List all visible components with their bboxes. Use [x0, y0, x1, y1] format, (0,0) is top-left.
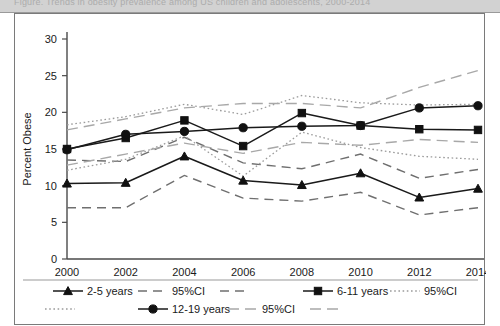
- y-axis-title: Percent Obese: [21, 112, 33, 185]
- data-point-12-19-years-2012: [415, 104, 423, 112]
- y-tick-label-20: 20: [45, 106, 57, 118]
- legend-item-6-11-years-label: 6-11 years: [337, 285, 389, 297]
- data-point-6-11-years-2004: [181, 117, 188, 124]
- legend-item-6-11-years-marker: [314, 287, 321, 294]
- caption-bar: Figure. Trends in obesity prevalence amo…: [0, 0, 500, 13]
- data-point-12-19-years-2000: [63, 146, 71, 154]
- x-tick-label-2012: 2012: [407, 266, 431, 278]
- x-tick-label-2010: 2010: [348, 266, 372, 278]
- chart-plot-area: 051015202530Percent Obese200020022004200…: [15, 14, 486, 326]
- data-point-12-19-years-2014: [474, 102, 482, 110]
- legend-item-95-ci-label: 95%CI: [172, 285, 205, 297]
- y-tick-label-30: 30: [45, 33, 57, 45]
- data-point-6-11-years-2006: [239, 142, 246, 149]
- y-tick-label-0: 0: [51, 253, 57, 265]
- x-tick-label-2004: 2004: [172, 266, 196, 278]
- data-point-12-19-years-2002: [122, 130, 130, 138]
- data-point-12-19-years-2010: [356, 121, 364, 129]
- legend-item-2-5-years-label: 2-5 years: [87, 285, 133, 297]
- x-tick-label-2006: 2006: [231, 266, 255, 278]
- series-path-12-19-years-95-ci-lower: [67, 140, 478, 166]
- data-point-12-19-years-2004: [180, 127, 188, 135]
- x-tick-label-2002: 2002: [113, 266, 137, 278]
- obesity-trend-line-chart: 051015202530Percent Obese200020022004200…: [15, 14, 486, 326]
- data-point-12-19-years-2006: [239, 124, 247, 132]
- series-path-12-19-years-95-ci-upper: [67, 71, 478, 130]
- legend-item-12-19-years-label: 12-19 years: [172, 303, 231, 315]
- legend-item-95-ci-label: 95%CI: [262, 303, 295, 315]
- caption-text: Figure. Trends in obesity prevalence amo…: [14, 0, 370, 7]
- data-point-2-5-years-2014: [474, 184, 483, 192]
- figure-container: Figure. Trends in obesity prevalence amo…: [0, 0, 500, 326]
- legend-item-95-ci-label: 95%CI: [424, 285, 457, 297]
- y-tick-label-25: 25: [45, 70, 57, 82]
- data-point-2-5-years-2010: [356, 169, 365, 177]
- x-tick-label-2008: 2008: [290, 266, 314, 278]
- y-tick-label-5: 5: [51, 216, 57, 228]
- data-point-6-11-years-2014: [474, 126, 481, 133]
- figure-frame: 051015202530Percent Obese200020022004200…: [14, 13, 485, 325]
- data-point-6-11-years-2012: [416, 126, 423, 133]
- x-tick-label-2014: 2014: [466, 266, 486, 278]
- legend-item-12-19-years-marker: [149, 305, 157, 313]
- data-point-2-5-years-2004: [180, 152, 189, 160]
- y-tick-label-15: 15: [45, 143, 57, 155]
- data-point-6-11-years-2008: [298, 109, 305, 116]
- x-tick-label-2000: 2000: [55, 266, 79, 278]
- data-point-12-19-years-2008: [298, 122, 306, 130]
- y-tick-label-10: 10: [45, 180, 57, 192]
